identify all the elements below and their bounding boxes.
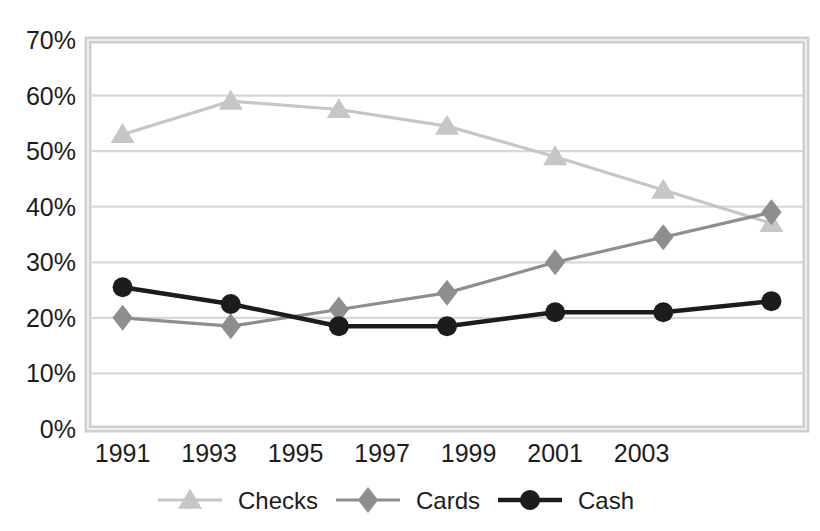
data-point-cash-6: [761, 291, 781, 311]
data-point-cash-0: [113, 277, 133, 297]
x-tick-label-2001: 2001: [527, 439, 583, 467]
y-tick-label-60%: 60%: [26, 82, 76, 110]
data-point-cash-2: [329, 316, 349, 336]
x-tick-label-2003: 2003: [614, 439, 670, 467]
data-point-cash-5: [653, 302, 673, 322]
data-point-cash-4: [545, 302, 565, 322]
x-tick-label-1995: 1995: [268, 439, 324, 467]
data-point-cash-1: [221, 294, 241, 314]
x-tick-label-1997: 1997: [354, 439, 410, 467]
y-tick-label-0%: 0%: [40, 415, 76, 443]
legend-label-cash: Cash: [578, 487, 634, 514]
y-tick-label-50%: 50%: [26, 137, 76, 165]
y-tick-label-20%: 20%: [26, 304, 76, 332]
y-tick-label-40%: 40%: [26, 193, 76, 221]
line-chart: 0%10%20%30%40%50%60%70% 1991199319951997…: [0, 0, 820, 531]
y-tick-label-70%: 70%: [26, 26, 76, 54]
x-tick-label-1999: 1999: [441, 439, 497, 467]
data-point-cash-3: [437, 316, 457, 336]
y-tick-label-10%: 10%: [26, 359, 76, 387]
y-tick-label-30%: 30%: [26, 248, 76, 276]
x-tick-label-1993: 1993: [181, 439, 237, 467]
legend-label-cards: Cards: [416, 487, 480, 514]
x-tick-label-1991: 1991: [95, 439, 151, 467]
legend-label-checks: Checks: [238, 487, 318, 514]
legend-marker-circle-icon: [520, 490, 540, 510]
chart-container: 0%10%20%30%40%50%60%70% 1991199319951997…: [0, 0, 820, 531]
